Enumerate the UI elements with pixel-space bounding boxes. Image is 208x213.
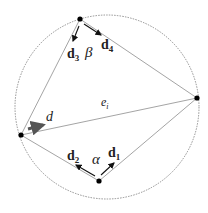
label-e-i: ei bbox=[101, 95, 109, 111]
label-d2: d2 bbox=[67, 148, 80, 165]
label-d3: d3 bbox=[67, 46, 80, 63]
arrow-d bbox=[28, 125, 43, 129]
label-alpha: α bbox=[92, 151, 101, 167]
vertex-bottom bbox=[96, 178, 101, 183]
vertex-top bbox=[77, 16, 82, 21]
label-d: d bbox=[46, 109, 54, 124]
label-d4: d4 bbox=[101, 37, 114, 54]
label-beta: β bbox=[84, 44, 93, 60]
vertex-right bbox=[194, 95, 199, 100]
vertex-left bbox=[18, 132, 23, 137]
arrow-d3 bbox=[73, 26, 79, 41]
label-d1: d1 bbox=[108, 145, 121, 162]
quadrilateral-diagram: d3 β d4 ei d d2 α d1 bbox=[0, 0, 208, 213]
arrow-d1 bbox=[101, 163, 114, 175]
arrow-d4 bbox=[84, 24, 101, 35]
